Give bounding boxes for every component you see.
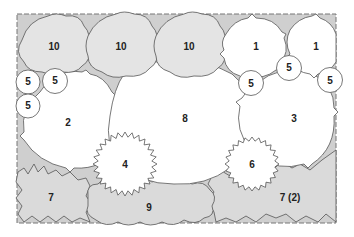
label-5-d: 5	[248, 78, 254, 89]
label-7-left: 7	[48, 192, 54, 203]
label-6: 6	[249, 159, 255, 170]
label-5-b: 5	[52, 75, 58, 86]
label-5-e: 5	[286, 62, 292, 73]
label-4: 4	[122, 159, 128, 170]
planting-plan-diagram: 10 10 10 1 1 5 5 5 5 5 5 2 8 3 4 6 7 9 7…	[0, 0, 354, 237]
label-5-f: 5	[327, 75, 333, 86]
label-1-a: 1	[253, 41, 259, 52]
label-2: 2	[65, 117, 71, 128]
label-10-a: 10	[48, 41, 60, 52]
label-3: 3	[291, 113, 297, 124]
label-5-c: 5	[25, 100, 31, 111]
label-8: 8	[182, 113, 188, 124]
label-7-right: 7 (2)	[280, 192, 301, 203]
label-1-b: 1	[313, 41, 319, 52]
label-9: 9	[146, 202, 152, 213]
label-5-a: 5	[25, 76, 31, 87]
label-10-b: 10	[115, 41, 127, 52]
label-10-c: 10	[183, 41, 195, 52]
